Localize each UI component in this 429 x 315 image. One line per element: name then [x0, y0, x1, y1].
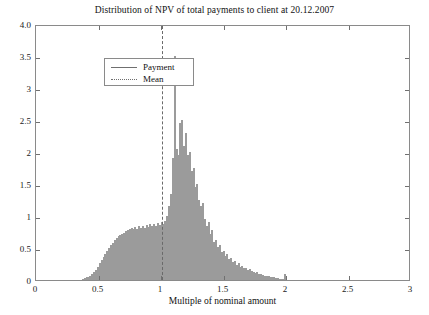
- y-axis-tick: [36, 250, 40, 251]
- y-axis-tick: [36, 90, 40, 91]
- y-axis-tick-right: [405, 250, 409, 251]
- chart-title: Distribution of NPV of total payments to…: [0, 5, 429, 15]
- legend-label-payment: Payment: [143, 63, 175, 72]
- legend-swatch-mean-icon: [111, 79, 137, 80]
- y-axis-tick-label: 4.0: [0, 20, 31, 30]
- x-axis-tick: [224, 276, 225, 280]
- y-axis-tick-label: 0: [0, 276, 31, 286]
- y-axis-tick-right: [405, 90, 409, 91]
- x-axis-tick-label: 1: [158, 284, 163, 294]
- x-axis-tick-label: 1.5: [217, 284, 228, 294]
- x-axis-tick-label: 0.5: [92, 284, 103, 294]
- y-axis-tick-label: 0.5: [0, 244, 31, 254]
- x-axis-tick-top: [286, 26, 287, 30]
- x-axis-tick-top: [161, 26, 162, 30]
- x-axis-tick: [349, 276, 350, 280]
- x-axis-tick-top: [349, 26, 350, 30]
- y-axis-tick-label: 1.5: [0, 180, 31, 190]
- y-axis-tick: [36, 154, 40, 155]
- x-axis-tick-label: 2.5: [342, 284, 353, 294]
- y-axis-tick-right: [405, 154, 409, 155]
- plot-area: Payment Mean: [35, 25, 410, 281]
- y-axis-tick-label: 3.5: [0, 52, 31, 62]
- legend-entry-mean: Mean: [105, 73, 193, 86]
- histogram-bars: [36, 26, 409, 280]
- x-axis-tick-label: 3: [408, 284, 413, 294]
- y-axis-tick-label: 2: [0, 148, 31, 158]
- x-axis-tick: [99, 276, 100, 280]
- y-axis-tick-label: 3: [0, 84, 31, 94]
- y-axis-tick: [36, 122, 40, 123]
- y-axis-tick-right: [405, 122, 409, 123]
- chart-legend: Payment Mean: [104, 58, 194, 86]
- y-axis-tick: [36, 186, 40, 187]
- y-axis-tick: [36, 58, 40, 59]
- y-axis-tick-label: 1: [0, 212, 31, 222]
- x-axis-tick-label: 0: [33, 284, 38, 294]
- x-axis-tick-top: [99, 26, 100, 30]
- y-axis-tick: [36, 218, 40, 219]
- x-axis-tick: [161, 276, 162, 280]
- x-axis-tick-top: [224, 26, 225, 30]
- x-axis-tick: [286, 276, 287, 280]
- legend-swatch-payment-icon: [111, 67, 137, 68]
- chart-figure: Distribution of NPV of total payments to…: [0, 0, 429, 315]
- y-axis-tick-right: [405, 186, 409, 187]
- y-axis-tick-right: [405, 58, 409, 59]
- y-axis-tick-label: 2.5: [0, 116, 31, 126]
- legend-label-mean: Mean: [143, 75, 164, 84]
- x-axis-title: Multiple of nominal amount: [35, 296, 410, 306]
- y-axis-tick-right: [405, 218, 409, 219]
- x-axis-tick-label: 2: [283, 284, 288, 294]
